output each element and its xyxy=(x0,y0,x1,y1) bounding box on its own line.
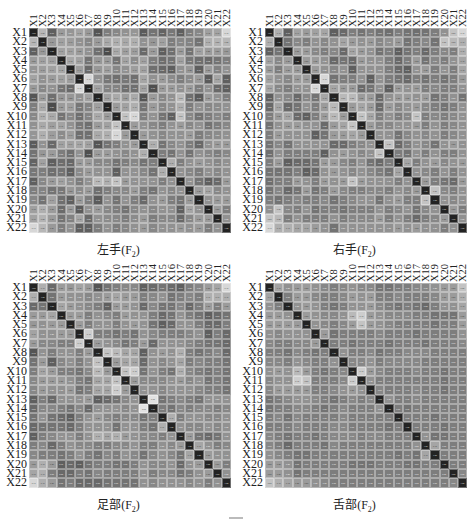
column-labels: X1X2X3X4X5X6X7X8X9X10X11X12X13X14X15X16X… xyxy=(265,258,467,282)
row-labels: X1X2X3X4X5X6X7X8X9X10X11X12X13X14X15X16X… xyxy=(6,283,27,488)
heatmap-cell: 0.53 xyxy=(213,65,222,74)
heatmap-cell: 0.45 xyxy=(139,320,148,329)
heatmap-cell: 0.55 xyxy=(274,432,283,441)
heatmap-cell: 0.40 xyxy=(302,28,311,37)
heatmap-cell: 0.45 xyxy=(302,205,311,214)
heatmap-cell: 0.10 xyxy=(29,478,38,487)
heatmap-cell: 0.39 xyxy=(66,130,75,139)
heatmap-cell: 0.55 xyxy=(403,56,412,65)
heatmap-cell: 0.50 xyxy=(440,47,449,56)
heatmap-cell: 0.42 xyxy=(93,56,102,65)
heatmap-cell: 0.33 xyxy=(93,112,102,121)
heatmap-cell: 0.50 xyxy=(213,413,222,422)
heatmap-cell: 0.50 xyxy=(348,395,357,404)
heatmap-cell: 0.40 xyxy=(348,84,357,93)
heatmap-cell: 0.55 xyxy=(384,292,393,301)
heatmap-cell: 1.00 xyxy=(148,404,157,413)
heatmap-cell: 0.55 xyxy=(458,348,467,357)
heatmap-cell: 0.40 xyxy=(103,367,112,376)
heatmap-cell: 0.60 xyxy=(311,432,320,441)
heatmap-cell: 0.45 xyxy=(66,357,75,366)
heatmap-cell: 0.40 xyxy=(47,214,56,223)
column-label-text: X8 xyxy=(93,269,102,282)
heatmap-cell: 0.60 xyxy=(57,167,66,176)
heatmap-cell: 0.45 xyxy=(167,357,176,366)
heatmap-cell: 0.50 xyxy=(158,130,167,139)
heatmap-cell: 0.50 xyxy=(339,367,348,376)
heatmap-cell: 0.60 xyxy=(320,441,329,450)
heatmap-cell: 0.38 xyxy=(103,93,112,102)
heatmap-cell: 0.35 xyxy=(185,450,194,459)
heatmap-cell: 0.55 xyxy=(430,329,439,338)
heatmap-cell: 0.55 xyxy=(265,158,274,167)
heatmap-cell: 0.60 xyxy=(185,47,194,56)
heatmap-cell: 0.55 xyxy=(440,121,449,130)
heatmap-cell: 0.55 xyxy=(458,376,467,385)
heatmap-cell: 0.60 xyxy=(139,102,148,111)
heatmap-cell: 0.45 xyxy=(375,65,384,74)
heatmap-cell: 0.45 xyxy=(213,93,222,102)
heatmap-cell: 0.55 xyxy=(384,432,393,441)
heatmap-cell: 0.36 xyxy=(265,292,274,301)
heatmap-cell: 0.40 xyxy=(47,367,56,376)
heatmap-cell: 0.65 xyxy=(421,302,430,311)
heatmap-cell: 0.45 xyxy=(185,385,194,394)
heatmap-cell: 0.58 xyxy=(75,102,84,111)
heatmap-cell: 0.45 xyxy=(458,167,467,176)
heatmap-cell: 0.65 xyxy=(283,186,292,195)
heatmap-cell: 0.55 xyxy=(84,450,93,459)
heatmap-cell: 0.55 xyxy=(430,65,439,74)
heatmap-cell: 0.50 xyxy=(394,292,403,301)
heatmap-cell: 0.55 xyxy=(440,56,449,65)
heatmap-cell: 0.58 xyxy=(167,28,176,37)
heatmap-cell: 0.55 xyxy=(176,74,185,83)
heatmap-cell: 0.65 xyxy=(213,177,222,186)
heatmap-cell: 0.45 xyxy=(458,214,467,223)
heatmap-cell: 0.62 xyxy=(57,195,66,204)
heatmap-cell: 0.37 xyxy=(47,65,56,74)
heatmap-cell: 0.48 xyxy=(130,56,139,65)
heatmap-cell: 0.40 xyxy=(449,140,458,149)
heatmap-cell: 0.55 xyxy=(403,450,412,459)
heatmap-cell: 0.50 xyxy=(148,450,157,459)
heatmap-cell: 0.45 xyxy=(440,65,449,74)
heatmap-cell: 0.60 xyxy=(176,469,185,478)
heatmap-cell: 0.50 xyxy=(348,167,357,176)
heatmap-cell: 0.50 xyxy=(357,140,366,149)
heatmap-cell: 0.60 xyxy=(440,432,449,441)
heatmap-cell: 0.55 xyxy=(339,214,348,223)
heatmap-cell: 0.72 xyxy=(29,140,38,149)
heatmap-cell: 0.55 xyxy=(311,385,320,394)
heatmap-cell: 0.40 xyxy=(339,112,348,121)
heatmap-cell: 0.50 xyxy=(421,167,430,176)
heatmap-cell: 0.40 xyxy=(274,367,283,376)
heatmap-cell: 1.00 xyxy=(29,28,38,37)
heatmap-cell: 0.45 xyxy=(121,140,130,149)
column-label: X22 xyxy=(458,3,467,27)
heatmap-cell: 0.45 xyxy=(222,469,231,478)
heatmap-cell: 0.40 xyxy=(302,74,311,83)
heatmap-cell: 0.15 xyxy=(348,376,357,385)
heatmap-cell: 0.30 xyxy=(265,37,274,46)
heatmap-cell: 0.50 xyxy=(412,357,421,366)
heatmap-cell: 0.45 xyxy=(75,37,84,46)
heatmap-cell: 0.52 xyxy=(84,112,93,121)
heatmap-cell: 0.25 xyxy=(329,102,338,111)
heatmap-cell: 0.40 xyxy=(265,469,274,478)
heatmap-cell: 0.55 xyxy=(430,102,439,111)
heatmap-cell: 0.45 xyxy=(75,149,84,158)
heatmap-cell: 0.50 xyxy=(121,395,130,404)
heatmap-cell: 0.40 xyxy=(121,302,130,311)
heatmap-cell: 0.55 xyxy=(185,395,194,404)
heatmap-cell: 0.37 xyxy=(66,140,75,149)
heatmap-cell: 0.35 xyxy=(213,283,222,292)
heatmap-cell: 0.45 xyxy=(93,214,102,223)
heatmap-cell: 0.60 xyxy=(421,28,430,37)
heatmap-cell: 0.40 xyxy=(222,195,231,204)
heatmap-cell: 0.41 xyxy=(222,47,231,56)
heatmap-cell: 0.55 xyxy=(148,469,157,478)
heatmap-cell: 0.35 xyxy=(103,432,112,441)
heatmap-cell: 0.55 xyxy=(430,348,439,357)
heatmap-cell: 0.38 xyxy=(47,121,56,130)
heatmap-cell: 0.55 xyxy=(185,28,194,37)
